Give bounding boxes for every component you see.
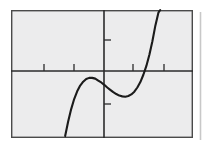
plot-frame [12,11,193,138]
graph-figure: cubic polynomial with local maximum left… [0,0,215,146]
cubic-function-plot [0,0,215,146]
